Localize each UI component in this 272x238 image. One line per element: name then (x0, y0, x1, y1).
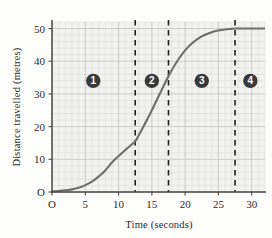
region-marker-label: 3 (199, 75, 205, 86)
y-tick-label: O (37, 186, 45, 198)
x-tick-label: O (48, 198, 56, 210)
y-tick-label: 50 (34, 23, 46, 35)
distance-time-chart: O51015202530 O1020304050 1234 Time (seco… (0, 0, 272, 238)
chart-figure: O51015202530 O1020304050 1234 Time (seco… (0, 0, 272, 238)
x-axis-label: Time (seconds) (125, 219, 193, 231)
region-marker-2: 2 (145, 74, 159, 88)
region-marker-label: 1 (90, 75, 96, 86)
x-tick-label: 10 (113, 198, 125, 210)
region-marker-label: 4 (248, 75, 254, 86)
y-tick-label: 40 (34, 55, 46, 67)
x-tick-label: 20 (180, 198, 192, 210)
region-marker-1: 1 (86, 74, 100, 88)
region-marker-label: 2 (149, 75, 155, 86)
region-marker-4: 4 (243, 74, 257, 88)
x-tick-label: 30 (246, 198, 258, 210)
y-tick-label: 10 (34, 153, 46, 165)
y-axis-label: Distance travelled (metres) (11, 47, 23, 166)
x-tick-label: 15 (146, 198, 158, 210)
y-tick-label: 30 (34, 88, 46, 100)
x-tick-label: 5 (83, 198, 89, 210)
x-tick-label: 25 (213, 198, 225, 210)
region-marker-3: 3 (195, 74, 209, 88)
y-tick-label: 20 (34, 121, 46, 133)
